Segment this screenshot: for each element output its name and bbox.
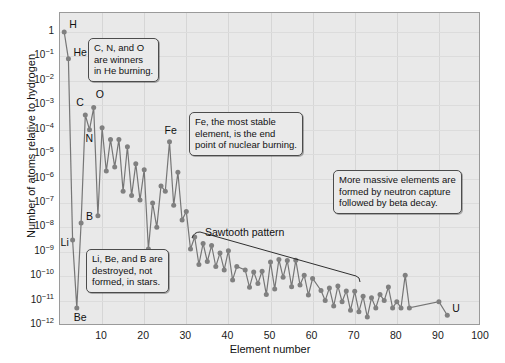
data-point-z29 — [180, 218, 185, 223]
x-axis-title: Element number — [180, 343, 360, 355]
data-point-z6 — [83, 113, 88, 118]
data-point-z45 — [247, 285, 252, 290]
data-point-z33 — [196, 262, 201, 267]
element-label-fe: Fe — [165, 124, 177, 136]
neutron-callout-line-2: formed by neutron capture — [339, 186, 456, 198]
data-point-z11 — [104, 169, 109, 174]
data-point-z36 — [209, 243, 214, 248]
neutron-callout-line-1: More massive elements are — [339, 174, 456, 186]
data-point-z37 — [213, 264, 218, 269]
data-point-z20 — [142, 167, 147, 172]
libeb-callout-line-3: formed, in stars. — [92, 276, 163, 288]
data-point-z83 — [407, 305, 412, 310]
x-tick-20: 20 — [123, 329, 163, 341]
data-point-z40 — [226, 248, 231, 253]
data-point-z71 — [356, 309, 361, 314]
data-point-z77 — [382, 298, 387, 303]
data-point-z62 — [319, 288, 324, 293]
fe-callout: Fe, the most stable element, is the end … — [189, 112, 303, 156]
data-point-z58 — [302, 273, 307, 278]
data-point-z74 — [369, 295, 374, 300]
data-point-z28 — [175, 170, 180, 175]
element-label-c: C — [76, 96, 84, 108]
x-tick-70: 70 — [334, 329, 374, 341]
data-point-z3 — [70, 238, 75, 243]
data-point-z24 — [159, 183, 164, 188]
data-point-z31 — [188, 247, 193, 252]
x-tick-100: 100 — [460, 329, 500, 341]
x-tick-30: 30 — [165, 329, 205, 341]
data-point-z69 — [348, 308, 353, 313]
data-point-z27 — [171, 203, 176, 208]
data-point-z55 — [289, 284, 294, 289]
cno-callout-line-3: in He burning. — [94, 65, 153, 77]
data-point-z72 — [361, 294, 366, 299]
data-point-z12 — [108, 137, 113, 142]
data-point-z38 — [218, 250, 223, 255]
data-point-z23 — [154, 225, 159, 230]
data-point-z18 — [133, 161, 138, 166]
data-point-z73 — [365, 315, 370, 320]
data-point-z32 — [192, 235, 197, 240]
data-point-z92 — [445, 313, 450, 318]
data-point-z80 — [394, 299, 399, 304]
fe-callout-line-3: point of nuclear burning. — [195, 139, 297, 151]
data-point-z64 — [327, 285, 332, 290]
data-point-z44 — [243, 267, 248, 272]
y-tick-10e-12: 10−12 — [8, 319, 54, 329]
abundance-chart-figure: 110−110−210−310−410−510−610−710−810−910−… — [0, 0, 505, 363]
element-label-he: He — [73, 46, 86, 58]
data-point-z54 — [285, 258, 290, 263]
data-point-z57 — [298, 282, 303, 287]
element-label-be: Be — [74, 311, 87, 323]
data-point-z9 — [95, 213, 100, 218]
data-point-z59 — [306, 293, 311, 298]
sawtooth-pattern-label: Sawtooth pattern — [205, 226, 284, 238]
data-point-z41 — [230, 277, 235, 282]
data-point-z2 — [66, 56, 71, 61]
y-tick-10e-10: 10−10 — [8, 270, 54, 280]
data-point-z15 — [121, 189, 126, 194]
x-tick-50: 50 — [250, 329, 290, 341]
data-point-z39 — [222, 267, 227, 272]
x-tick-10: 10 — [81, 329, 121, 341]
cno-callout-line-1: C, N, and O — [94, 42, 153, 54]
data-point-z63 — [323, 298, 328, 303]
element-label-b: B — [86, 210, 93, 222]
element-label-h: H — [69, 18, 77, 30]
x-tick-80: 80 — [376, 329, 416, 341]
data-point-z79 — [390, 305, 395, 310]
data-point-z16 — [125, 144, 130, 149]
data-point-z26 — [167, 139, 172, 144]
data-point-z78 — [386, 285, 391, 290]
data-point-z4 — [74, 305, 79, 310]
data-point-z70 — [352, 289, 357, 294]
data-point-z67 — [340, 299, 345, 304]
data-point-z17 — [129, 193, 134, 198]
data-point-z8 — [91, 105, 96, 110]
data-point-z81 — [399, 305, 404, 310]
data-point-z14 — [116, 137, 121, 142]
x-tick-60: 60 — [292, 329, 332, 341]
data-point-z25 — [163, 189, 168, 194]
fe-callout-line-1: Fe, the most stable — [195, 116, 297, 128]
y-tick-10e-11: 10−11 — [8, 295, 54, 305]
x-tick-40: 40 — [207, 329, 247, 341]
data-point-z52 — [276, 257, 281, 262]
libeb-callout-line-2: destroyed, not — [92, 265, 163, 277]
data-point-z42 — [234, 264, 239, 269]
cno-callout-line-2: are winners — [94, 54, 153, 66]
data-point-z5 — [79, 221, 84, 226]
data-point-z35 — [205, 259, 210, 264]
element-label-u: U — [452, 302, 460, 314]
data-point-z51 — [272, 286, 277, 291]
data-point-z1 — [62, 30, 67, 35]
data-point-z19 — [138, 198, 143, 203]
data-point-z66 — [335, 283, 340, 288]
data-point-z10 — [100, 125, 105, 130]
element-label-li: Li — [61, 236, 69, 248]
data-point-z65 — [331, 304, 336, 309]
data-point-z68 — [344, 288, 349, 293]
libeb-callout-line-1: Li, Be, and B are — [92, 253, 163, 265]
data-point-z56 — [293, 258, 298, 263]
